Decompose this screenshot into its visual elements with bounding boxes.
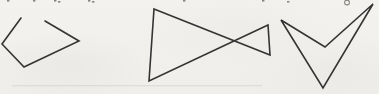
dart-quadrilateral-figure <box>281 4 373 88</box>
cropped-text-fragment <box>58 1 60 3</box>
cropped-text-fragment <box>88 0 90 2</box>
cropped-text-fragment <box>7 0 9 2</box>
g-descender-loop-fragment <box>345 0 350 5</box>
cropped-text-fragment <box>92 1 94 3</box>
scan-smudge-line <box>12 85 262 86</box>
cropped-text-fragment <box>33 0 35 2</box>
cropped-text-fragment <box>54 0 56 2</box>
cropped-text-fragment <box>262 0 264 2</box>
scanned-page-fragment <box>0 0 379 94</box>
cropped-text-fragment <box>183 0 185 2</box>
figures-svg <box>0 0 379 94</box>
bowtie-quadrilateral-figure <box>149 9 270 81</box>
cropped-text-fragment <box>287 1 289 3</box>
open-polyline-pentagon-figure <box>2 18 79 67</box>
